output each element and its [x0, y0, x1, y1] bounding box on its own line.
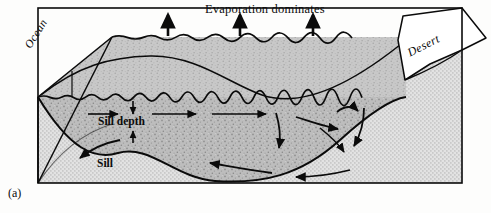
figure-title: Evaporation dominates [205, 2, 325, 17]
sill-label: Sill [97, 157, 113, 169]
water-body-top-face [38, 37, 406, 97]
panel-label: (a) [8, 186, 21, 201]
sill-depth-label: Sill depth [98, 115, 145, 127]
basin-cross-section-drawing [0, 0, 491, 213]
evaporation-arrows [168, 15, 313, 36]
figure-evaporative-basin: Evaporation dominates Ocean Desert Sill … [0, 0, 491, 213]
